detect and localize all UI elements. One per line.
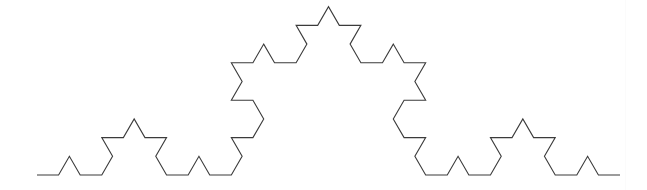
koch-curve-path [37,7,620,175]
koch-curve-figure [0,0,647,190]
koch-curve-canvas [0,0,647,190]
right-edge-artifact [625,0,626,190]
